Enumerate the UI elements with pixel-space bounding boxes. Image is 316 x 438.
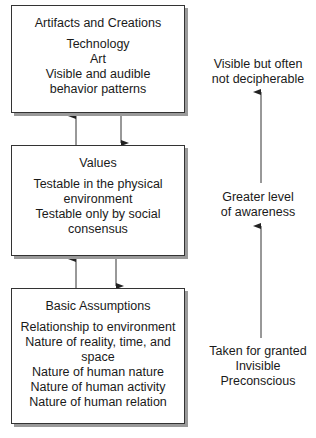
box-line: environment bbox=[12, 192, 184, 207]
taken-for-granted-label: Taken for granted Invisible Preconscious bbox=[200, 344, 316, 389]
artifacts-box: Artifacts and Creations Technology Art V… bbox=[11, 5, 185, 113]
box-line: Nature of reality, time, and bbox=[12, 335, 184, 350]
box-line: Nature of human nature bbox=[12, 365, 184, 380]
label-line: of awareness bbox=[200, 205, 316, 220]
basic-assumptions-box: Basic Assumptions Relationship to enviro… bbox=[11, 288, 185, 424]
label-line: Taken for granted bbox=[200, 344, 316, 359]
label-line: Visible but often bbox=[200, 57, 316, 72]
box-line: consensus bbox=[12, 222, 184, 237]
box-line: Technology bbox=[12, 37, 184, 52]
label-line: Greater level bbox=[200, 190, 316, 205]
box-line: Testable only by social bbox=[12, 207, 184, 222]
label-line: not decipherable bbox=[200, 72, 316, 87]
box-line: Relationship to environment bbox=[12, 320, 184, 335]
box-line: Nature of human activity bbox=[12, 380, 184, 395]
box-line: Art bbox=[12, 52, 184, 67]
awareness-label: Greater level of awareness bbox=[200, 190, 316, 220]
values-box: Values Testable in the physical environm… bbox=[11, 145, 185, 256]
box-line: space bbox=[12, 350, 184, 365]
box-title: Artifacts and Creations bbox=[12, 16, 184, 31]
box-line: Visible and audible bbox=[12, 67, 184, 82]
label-line: Preconscious bbox=[200, 374, 316, 389]
box-title: Basic Assumptions bbox=[12, 299, 184, 314]
box-line: Nature of human relation bbox=[12, 395, 184, 410]
box-line: behavior patterns bbox=[12, 82, 184, 97]
box-title: Values bbox=[12, 156, 184, 171]
visible-label: Visible but often not decipherable bbox=[200, 57, 316, 87]
box-line: Testable in the physical bbox=[12, 177, 184, 192]
label-line: Invisible bbox=[200, 359, 316, 374]
